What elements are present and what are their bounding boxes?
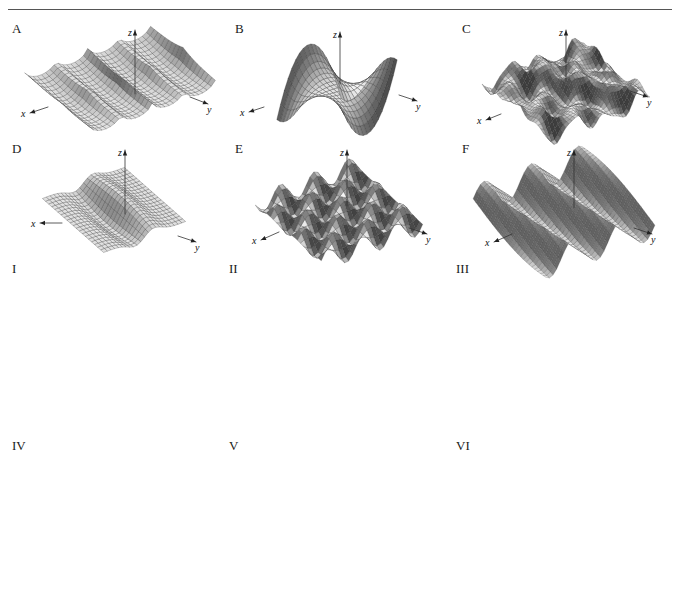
surface-e-plot: zxy — [227, 136, 454, 258]
contour-v-plot — [227, 437, 454, 615]
contour-iii-plot — [454, 262, 680, 434]
panel-contour-i: I — [0, 262, 227, 434]
contour-iv-plot — [0, 437, 227, 615]
svg-text:z: z — [339, 147, 344, 158]
svg-text:z: z — [127, 27, 132, 38]
svg-text:y: y — [425, 234, 431, 245]
svg-text:y: y — [650, 234, 656, 245]
contour-i-plot — [0, 262, 227, 434]
top-text-artifact — [0, 0, 680, 7]
svg-text:y: y — [206, 104, 212, 115]
surface-a-plot: zxy — [0, 14, 227, 134]
svg-text:x: x — [239, 107, 245, 118]
svg-text:z: z — [558, 27, 563, 38]
svg-text:x: x — [484, 237, 490, 248]
surface-b-plot: zxy — [227, 14, 454, 134]
contour-ii-plot — [227, 262, 454, 434]
svg-text:x: x — [476, 115, 482, 126]
svg-text:x: x — [20, 108, 26, 119]
contour-vi-plot — [454, 437, 680, 615]
surface-d-plot: zxy — [0, 136, 227, 258]
svg-text:x: x — [251, 235, 257, 246]
panel-surface-d: D zxy — [0, 136, 227, 258]
panel-surface-e: E zxy — [227, 136, 454, 258]
svg-text:z: z — [117, 147, 122, 158]
panel-surface-a: A zxy — [0, 14, 227, 134]
svg-text:z: z — [332, 29, 337, 40]
panel-surface-b: B zxy — [227, 14, 454, 134]
panel-contour-iv: IV — [0, 437, 227, 615]
header-rule — [8, 9, 672, 10]
surface-f-plot: zxy — [454, 136, 680, 258]
panel-contour-iii: III — [454, 262, 680, 434]
svg-text:y: y — [194, 242, 200, 253]
svg-text:y: y — [646, 97, 652, 108]
svg-text:y: y — [415, 101, 421, 112]
panel-contour-vi: VI — [454, 437, 680, 615]
panel-contour-v: V — [227, 437, 454, 615]
panel-surface-c: C zxy — [454, 14, 680, 134]
figure-page: A zxy B zxy C zxy D zxy E zxy F zxy — [0, 0, 680, 615]
surface-c-plot: zxy — [454, 14, 680, 134]
panel-contour-ii: II — [227, 262, 454, 434]
svg-text:x: x — [30, 218, 36, 229]
panel-surface-f: F zxy — [454, 136, 680, 258]
svg-text:z: z — [566, 147, 571, 158]
